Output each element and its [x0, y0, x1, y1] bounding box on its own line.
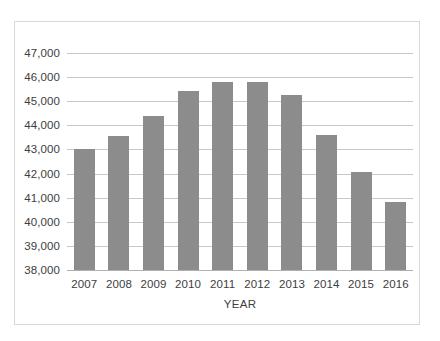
x-tick-label-2010: 2010: [175, 278, 201, 290]
x-tick-label-2013: 2013: [279, 278, 305, 290]
y-tick-label: 39,000: [24, 240, 60, 252]
bar-2007: [74, 149, 95, 270]
bar-2010: [178, 91, 199, 270]
bar-2016: [385, 202, 406, 270]
x-tick-label-2008: 2008: [106, 278, 132, 290]
x-tick-label-2014: 2014: [314, 278, 340, 290]
y-tick-label: 41,000: [24, 192, 60, 204]
plot-area: 47,00046,00045,00044,00043,00042,00041,0…: [67, 53, 413, 270]
y-tick-label: 40,000: [24, 216, 60, 228]
y-tick-label: 45,000: [24, 95, 60, 107]
x-tick-label-2009: 2009: [141, 278, 167, 290]
bar-2012: [247, 82, 268, 270]
y-tick-label: 46,000: [24, 71, 60, 83]
y-tick-label: 43,000: [24, 143, 60, 155]
x-tick-label-2007: 2007: [71, 278, 97, 290]
x-axis-title: YEAR: [67, 298, 413, 310]
y-tick-label: 38,000: [24, 264, 60, 276]
bar-2011: [212, 82, 233, 270]
bar-2013: [281, 95, 302, 270]
y-tick-label: 44,000: [24, 119, 60, 131]
x-tick-label-2012: 2012: [244, 278, 270, 290]
x-axis-tick-labels: 2007200820092010201120122013201420152016: [67, 278, 413, 294]
bar-2009: [143, 116, 164, 270]
bar-2008: [108, 136, 129, 270]
bar-chart-figure: 47,00046,00045,00044,00043,00042,00041,0…: [14, 21, 420, 325]
bars-layer: [67, 53, 413, 270]
x-tick-label-2015: 2015: [348, 278, 374, 290]
bar-2015: [351, 172, 372, 270]
bar-2014: [316, 135, 337, 270]
y-tick-label: 42,000: [24, 168, 60, 180]
gridline-38000: [67, 270, 413, 271]
x-tick-label-2016: 2016: [383, 278, 409, 290]
y-tick-label: 47,000: [24, 47, 60, 59]
x-tick-label-2011: 2011: [210, 278, 235, 290]
